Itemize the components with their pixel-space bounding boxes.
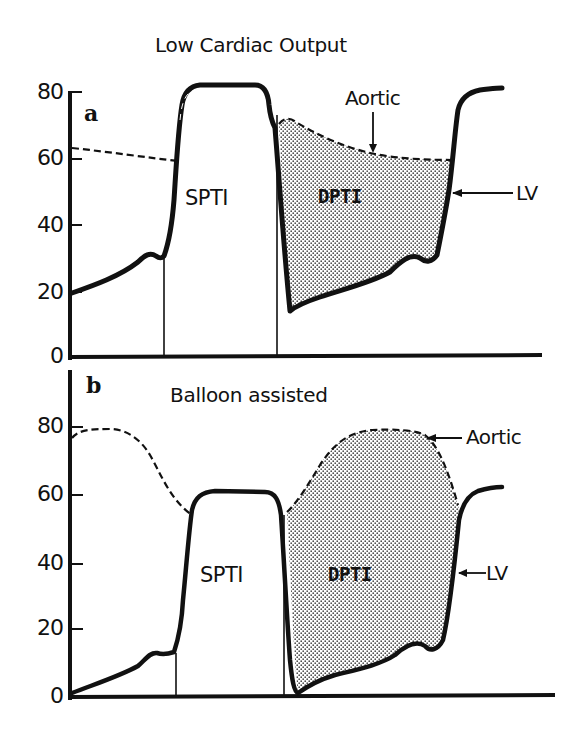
x-axis-a — [68, 355, 542, 357]
y-tick-label-0-b: 0 — [3, 683, 63, 708]
y-tick-label-20-b: 20 — [3, 615, 63, 640]
y-tick-label-40-b: 40 — [3, 550, 63, 575]
arrowhead-lv-b-icon — [458, 569, 467, 577]
panel-b-letter: b — [86, 372, 101, 398]
dpti-label-b: DPTI — [328, 563, 372, 585]
aortic-label-a: Aortic — [345, 86, 400, 110]
panel-a-letter: a — [84, 100, 98, 126]
dpti-label-a: DPTI — [318, 185, 362, 207]
y-tick-label-40-a: 40 — [3, 212, 63, 237]
dpti-shaded-area-b — [287, 430, 460, 693]
arrowhead-lv-a-icon — [452, 189, 462, 197]
panel-b — [68, 370, 555, 700]
aortic-overlay-systole-a — [180, 89, 266, 120]
y-tick-label-80-a: 80 — [3, 79, 63, 104]
y-tick-label-80-b: 80 — [3, 413, 63, 438]
aortic-label-b: Aortic — [466, 425, 521, 449]
panel-b-title: Balloon assisted — [170, 383, 328, 407]
aortic-pressure-curve-a — [72, 119, 454, 161]
panel-a — [68, 85, 542, 360]
x-axis-b — [68, 695, 555, 697]
spti-label-a: SPTI — [185, 186, 228, 210]
arrowhead-aortic-a-icon — [369, 144, 377, 153]
y-tick-label-60-b: 60 — [3, 481, 63, 506]
y-tick-label-0-a: 0 — [3, 343, 63, 368]
panel-a-title: Low Cardiac Output — [155, 33, 347, 57]
spti-label-b: SPTI — [200, 563, 243, 587]
lv-label-a: LV — [516, 181, 538, 205]
y-tick-label-60-a: 60 — [3, 145, 63, 170]
lv-label-b: LV — [486, 561, 508, 585]
y-tick-label-20-a: 20 — [3, 279, 63, 304]
